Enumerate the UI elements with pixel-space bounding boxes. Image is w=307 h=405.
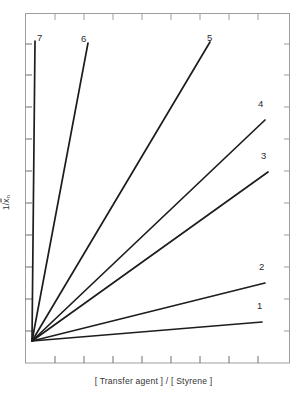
curve-label-1: 1 — [257, 301, 262, 311]
curve-label-2: 2 — [259, 262, 264, 272]
x-axis-label: [ Transfer agent ] / [ Styrene ] — [0, 376, 307, 386]
curve-label-5: 5 — [207, 33, 212, 43]
chart-figure: 1 2 3 4 5 6 7 [ Transfer agent ] / [ Sty… — [0, 0, 307, 405]
y-axis-denominator: x — [2, 199, 11, 203]
plot-area — [0, 0, 307, 405]
y-axis-label: 1/xn — [2, 183, 11, 223]
curve-label-3: 3 — [261, 151, 266, 161]
curve-label-4: 4 — [258, 99, 263, 109]
y-axis-numerator: 1 — [2, 205, 11, 210]
curve-label-7: 7 — [37, 33, 42, 43]
curve-label-6: 6 — [81, 34, 86, 44]
